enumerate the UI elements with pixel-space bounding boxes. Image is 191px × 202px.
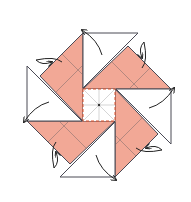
center-square [83,89,115,121]
pinwheel-figure [0,0,191,202]
pinwheel-diagram [0,0,191,202]
center-point [98,104,100,106]
